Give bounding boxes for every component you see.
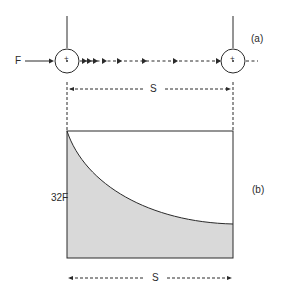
dimension-s-label-a: S xyxy=(150,84,157,94)
y-axis-32f-label: 32F xyxy=(51,193,68,203)
dim-arrow-right-b-icon xyxy=(227,276,232,280)
right-node-symbol: + xyxy=(230,55,235,63)
dimension-s-label-b: S xyxy=(152,273,159,283)
diagram-canvas xyxy=(0,0,282,297)
part-b-figure xyxy=(67,131,233,280)
left-node-symbol: + xyxy=(64,55,69,63)
part-a-figure xyxy=(25,16,258,131)
dim-arrow-left-a-icon xyxy=(69,87,74,91)
dim-arrow-right-a-icon xyxy=(226,87,231,91)
part-b-label: (b) xyxy=(252,185,264,195)
dim-arrow-left-b-icon xyxy=(68,276,73,280)
input-force-label: F xyxy=(15,56,21,66)
input-arrowhead-icon xyxy=(49,59,54,64)
shaded-area xyxy=(67,131,233,258)
part-a-label: (a) xyxy=(251,34,263,44)
